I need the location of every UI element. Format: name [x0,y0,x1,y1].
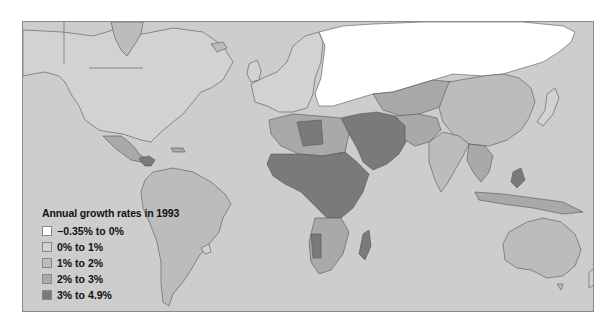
region-mexico [103,136,145,162]
legend-swatch [42,242,52,252]
legend-item: 1% to 2% [42,255,179,271]
legend-swatch [42,258,52,268]
legend-item: 0% to 1% [42,239,179,255]
region-new-zealand [589,268,594,288]
legend-swatch [42,274,52,284]
region-western-europe [251,32,323,112]
region-sub-saharan-africa [267,152,369,218]
legend-item: 3% to 4.9% [42,287,179,303]
region-southeast-asia [467,144,493,182]
region-uk [247,60,261,82]
map-frame: Annual growth rates in 1993 −0.35% to 0%… [22,21,594,312]
legend-item: −0.35% to 0% [42,223,179,239]
region-australia [503,218,581,278]
legend-label: −0.35% to 0% [57,225,124,237]
legend-label: 2% to 3% [57,273,103,285]
region-japan [537,88,559,126]
region-central-america [139,156,155,166]
region-namibia [311,234,321,258]
region-caribbean [171,148,185,152]
legend-title: Annual growth rates in 1993 [42,207,179,219]
legend-swatch [42,290,52,300]
legend-label: 1% to 2% [57,257,103,269]
region-philippines [511,168,525,188]
region-tasmania [557,284,563,290]
legend-item: 2% to 3% [42,271,179,287]
legend-label: 0% to 1% [57,241,103,253]
legend-swatch [42,226,52,236]
region-india [429,132,469,192]
region-madagascar [359,230,371,260]
map-legend: Annual growth rates in 1993 −0.35% to 0%… [42,207,179,303]
legend-label: 3% to 4.9% [57,289,112,301]
region-indonesia [475,192,583,214]
